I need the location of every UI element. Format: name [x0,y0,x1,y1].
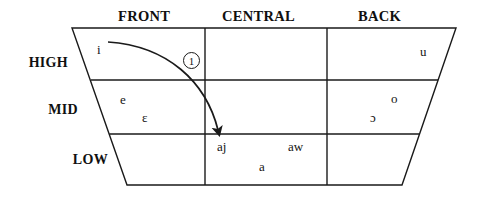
vowel-symbol-e: e [120,92,126,108]
vowel-symbol-open-o: ɔ [370,110,376,126]
vowel-symbol-i: i [97,42,101,58]
vowel-symbol-aj: aj [217,139,226,155]
chart-grid [0,0,482,201]
vowel-symbol-o: o [391,91,398,107]
annotation-marker-1: 1 [183,52,200,69]
vowel-symbol-a: a [259,159,265,175]
vowel-symbol-u: u [420,44,427,60]
glide-arrow-i-to-aj [108,42,218,130]
vowel-symbol-epsilon: ɛ [142,110,147,126]
vowel-chart-diagram: FRONT CENTRAL BACK HIGH MID LOW i u e ɛ … [0,0,482,201]
vowel-symbol-aw: aw [288,139,303,155]
